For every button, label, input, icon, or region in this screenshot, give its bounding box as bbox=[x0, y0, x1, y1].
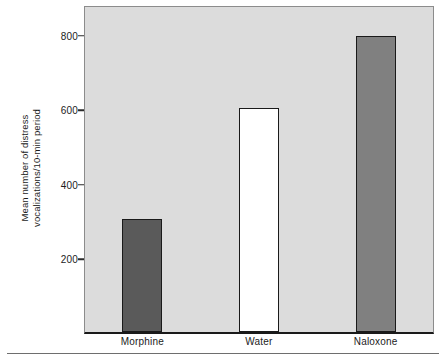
y-axis-title-text: Mean number of distress vocalizations/10… bbox=[19, 109, 42, 227]
y-axis-title: Mean number of distress vocalizations/10… bbox=[12, 0, 48, 336]
footer-divider bbox=[7, 353, 439, 354]
x-axis-label-morphine: Morphine bbox=[121, 336, 164, 347]
x-axis-label-naloxone: Naloxone bbox=[354, 336, 398, 347]
x-axis-label-water: Water bbox=[245, 336, 272, 347]
y-tick-label-800: 800 bbox=[44, 30, 78, 41]
bar-naloxone bbox=[356, 36, 396, 332]
y-axis-tick-labels: 200400600800 bbox=[44, 0, 78, 358]
y-tick-label-600: 600 bbox=[44, 105, 78, 116]
y-tick-label-400: 400 bbox=[44, 179, 78, 190]
y-axis-title-line-2: vocalizations/10-min period bbox=[30, 109, 42, 227]
x-axis-category-labels: MorphineWaterNaloxone bbox=[84, 336, 434, 352]
y-axis-title-line-1: Mean number of distress bbox=[19, 109, 31, 227]
bar-morphine bbox=[122, 219, 162, 332]
y-tick-label-200: 200 bbox=[44, 254, 78, 265]
bar-chart-figure: Mean number of distress vocalizations/10… bbox=[0, 0, 446, 358]
bar-water bbox=[239, 108, 279, 332]
plot-area bbox=[84, 6, 434, 334]
